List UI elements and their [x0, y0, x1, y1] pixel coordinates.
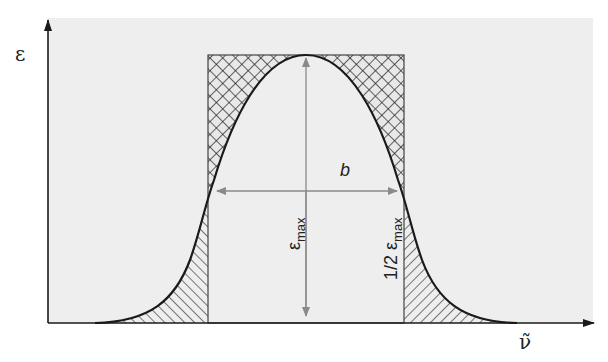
band-diagram [0, 0, 608, 362]
half-peak-label-subscript: max [390, 217, 405, 242]
peak-label: εmax [284, 217, 308, 250]
peak-label-symbol: ε [284, 242, 304, 250]
half-peak-label-prefix: 1/2 [381, 250, 401, 280]
band-width-label: b [340, 160, 350, 181]
x-axis-label: ν̃ [519, 330, 531, 354]
half-peak-label-symbol: ε [381, 242, 401, 250]
peak-label-subscript: max [293, 217, 308, 242]
y-axis-label: ε [15, 42, 25, 66]
half-peak-label: 1/2 εmax [381, 217, 405, 280]
